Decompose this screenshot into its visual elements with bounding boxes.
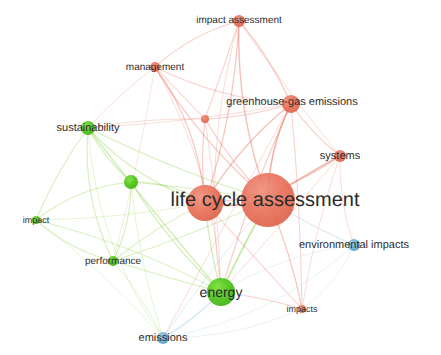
nodes-layer[interactable] (32, 15, 360, 344)
network-edge (340, 156, 354, 245)
network-edge (291, 104, 340, 156)
network-node-lca-secondary[interactable] (187, 185, 223, 221)
network-node-energy[interactable] (207, 278, 235, 306)
network-edge (36, 220, 113, 261)
network-node-impact-assessment[interactable] (233, 15, 245, 27)
network-graph-svg[interactable] (0, 0, 441, 355)
network-node-systems[interactable] (334, 150, 346, 162)
network-edge (155, 67, 205, 203)
network-edge (155, 67, 205, 119)
edges-layer (36, 21, 354, 338)
network-edge (163, 245, 354, 338)
network-node-greenhouse-gas-emissions[interactable] (282, 95, 300, 113)
network-node-red-small-unlabeled[interactable] (201, 115, 209, 123)
network-node-environmental-impacts[interactable] (348, 239, 360, 251)
network-node-impacts[interactable] (298, 305, 306, 313)
network-edge (36, 128, 88, 220)
network-edge (88, 104, 291, 128)
network-visualization-canvas[interactable]: life cycle assessmentgreenhouse-gas emis… (0, 0, 441, 355)
network-node-impact[interactable] (32, 216, 40, 224)
network-edge (88, 128, 205, 203)
network-edge (205, 21, 239, 119)
network-edge (239, 21, 291, 104)
network-node-sustainability[interactable] (81, 121, 95, 135)
network-node-emissions[interactable] (157, 332, 169, 344)
network-node-management[interactable] (150, 62, 160, 72)
network-edge (36, 203, 205, 220)
network-node-life-cycle-assessment-main[interactable] (241, 173, 295, 227)
network-node-green-mid-unlabeled[interactable] (124, 175, 138, 189)
network-edge (36, 182, 131, 220)
network-node-performance[interactable] (108, 256, 118, 266)
network-edge (302, 245, 354, 309)
network-edge (239, 21, 340, 156)
network-edge (88, 67, 155, 128)
